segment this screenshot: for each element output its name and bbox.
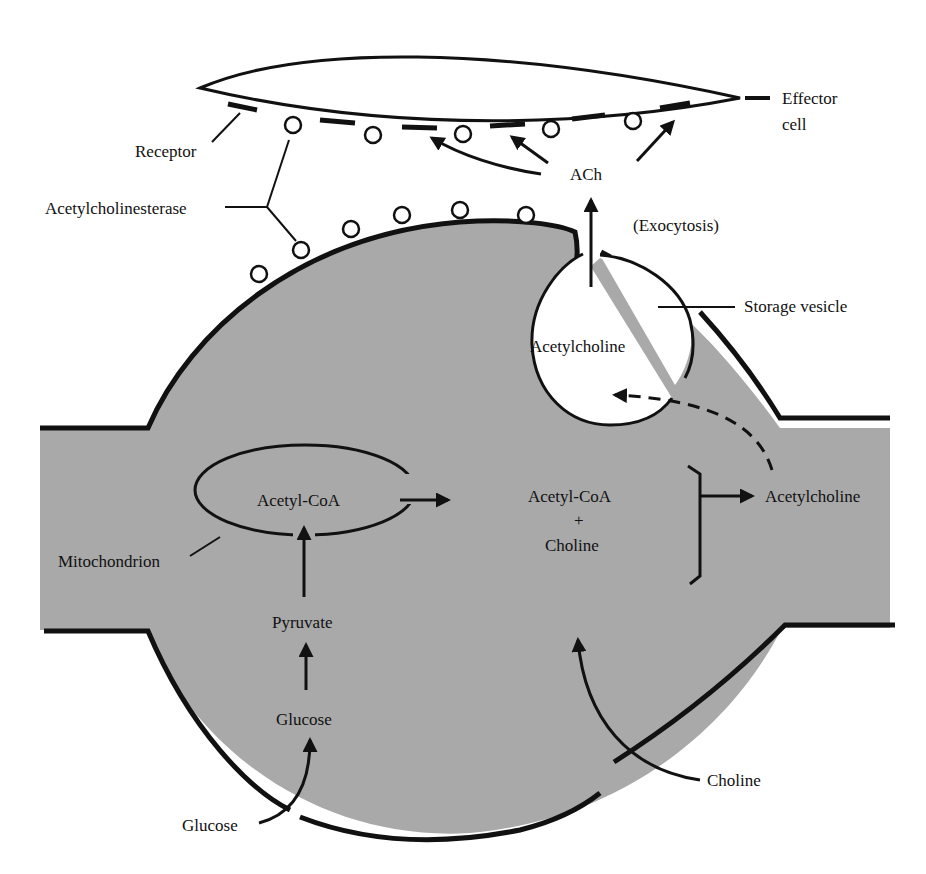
label-exocytosis: (Exocytosis) (633, 216, 719, 235)
acetylcholinesterase-leader (225, 140, 296, 241)
label-receptor: Receptor (135, 142, 197, 161)
label-substrate-choline: Choline (545, 536, 599, 555)
label-pyruvate: Pyruvate (272, 613, 332, 632)
label-substrate-plus: + (574, 511, 584, 530)
label-effector-cell: cell (782, 115, 807, 134)
cholinergic-synapse-diagram: Effector cell Receptor Acetylcholinester… (0, 0, 926, 874)
label-ach: ACh (570, 165, 603, 184)
label-vesicle-acetylcholine: Acetylcholine (530, 337, 625, 356)
label-glucose-outside: Glucose (182, 816, 238, 835)
label-substrate-acetyl-coa: Acetyl-CoA (528, 487, 612, 506)
receptor-leader (212, 113, 240, 142)
label-mitochondrion: Mitochondrion (58, 552, 160, 571)
label-product-acetylcholine: Acetylcholine (765, 487, 860, 506)
label-effector: Effector (782, 89, 838, 108)
label-glucose-inside: Glucose (276, 710, 332, 729)
label-acetylcholinesterase: Acetylcholinesterase (45, 199, 187, 218)
label-mito-acetyl-coa: Acetyl-CoA (257, 491, 341, 510)
label-storage-vesicle: Storage vesicle (744, 297, 847, 316)
label-choline-outside: Choline (707, 771, 761, 790)
